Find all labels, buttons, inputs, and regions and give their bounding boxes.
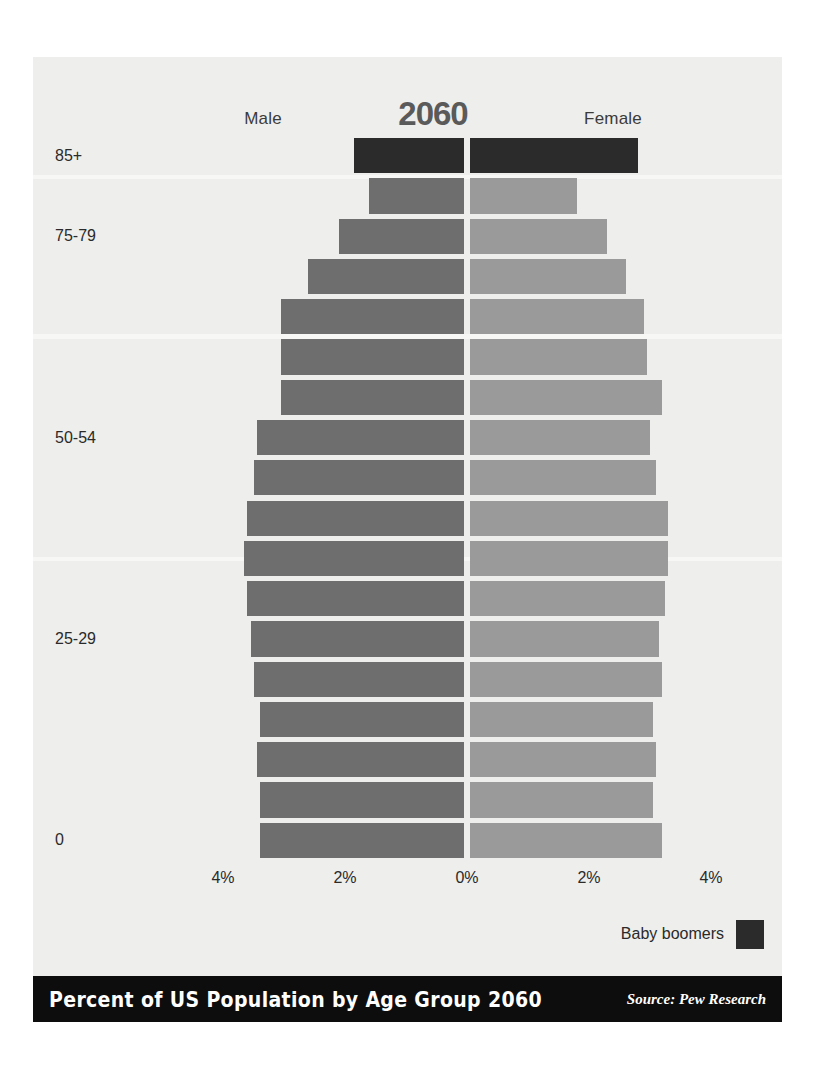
y-axis-tick-label: 50-54 <box>55 430 96 446</box>
bar-male <box>369 178 464 213</box>
pyramid-row <box>33 501 782 536</box>
bar-female <box>470 138 638 173</box>
year-title: 2060 <box>373 95 493 133</box>
bar-female <box>470 380 662 415</box>
bar-male <box>308 259 464 294</box>
bar-female <box>470 782 653 817</box>
legend-label: Baby boomers <box>621 925 724 943</box>
bar-male <box>247 501 464 536</box>
y-axis-tick-label: 25-29 <box>55 631 96 647</box>
pyramid-row <box>33 662 782 697</box>
footer-bar: Percent of US Population by Age Group 20… <box>33 976 782 1022</box>
bar-female <box>470 339 647 374</box>
bar-female <box>470 259 626 294</box>
pyramid-row <box>33 259 782 294</box>
pyramid-row <box>33 138 782 173</box>
bar-female <box>470 823 662 858</box>
pyramid-row <box>33 621 782 656</box>
bar-male <box>257 420 464 455</box>
poster: Male 2060 Female 85+75-7950-5425-290 4%2… <box>33 57 782 976</box>
bar-male <box>244 541 464 576</box>
pyramid-row <box>33 380 782 415</box>
bar-female <box>470 219 607 254</box>
pyramid-row <box>33 339 782 374</box>
bar-female <box>470 742 656 777</box>
pyramid-row <box>33 219 782 254</box>
bar-male <box>260 823 464 858</box>
bar-female <box>470 662 662 697</box>
bar-female <box>470 178 577 213</box>
bar-female <box>470 299 644 334</box>
bar-female <box>470 420 650 455</box>
bar-male <box>251 621 465 656</box>
x-axis-tick-label: 0% <box>432 869 502 887</box>
chart-header: Male 2060 Female <box>33 95 782 141</box>
bar-male <box>281 299 464 334</box>
bar-male <box>281 339 464 374</box>
y-axis-tick-label: 75-79 <box>55 228 96 244</box>
pyramid-row <box>33 742 782 777</box>
x-axis-tick-label: 2% <box>554 869 624 887</box>
bar-female <box>470 460 656 495</box>
pyramid-row <box>33 823 782 858</box>
bar-male <box>247 581 464 616</box>
legend-swatch-baby-boomers <box>736 920 764 949</box>
pyramid-row <box>33 581 782 616</box>
pyramid-row <box>33 420 782 455</box>
pyramid-row <box>33 702 782 737</box>
x-axis-tick-label: 4% <box>676 869 746 887</box>
pyramid-row <box>33 460 782 495</box>
bar-male <box>354 138 464 173</box>
population-pyramid-plot: 85+75-7950-5425-290 <box>33 138 782 863</box>
bar-male <box>254 662 464 697</box>
bar-male <box>254 460 464 495</box>
bar-male <box>339 219 464 254</box>
x-axis: 4%2%0%2%4% <box>33 869 782 903</box>
bar-male <box>260 702 464 737</box>
y-axis-tick-label: 85+ <box>55 148 82 164</box>
pyramid-row <box>33 782 782 817</box>
pyramid-row <box>33 299 782 334</box>
bar-female <box>470 621 659 656</box>
bar-female <box>470 501 668 536</box>
x-axis-tick-label: 2% <box>310 869 380 887</box>
pyramid-row <box>33 541 782 576</box>
legend: Baby boomers <box>621 919 764 949</box>
male-axis-label: Male <box>203 109 323 129</box>
x-axis-tick-label: 4% <box>188 869 258 887</box>
y-axis-tick-label: 0 <box>55 832 64 848</box>
bar-female <box>470 702 653 737</box>
bar-female <box>470 541 668 576</box>
bar-male <box>260 782 464 817</box>
bar-male <box>281 380 464 415</box>
pyramid-row <box>33 178 782 213</box>
source-credit: Source: Pew Research <box>627 991 766 1008</box>
female-axis-label: Female <box>553 109 673 129</box>
bar-male <box>257 742 464 777</box>
chart-title: Percent of US Population by Age Group 20… <box>49 987 542 1012</box>
bar-female <box>470 581 665 616</box>
